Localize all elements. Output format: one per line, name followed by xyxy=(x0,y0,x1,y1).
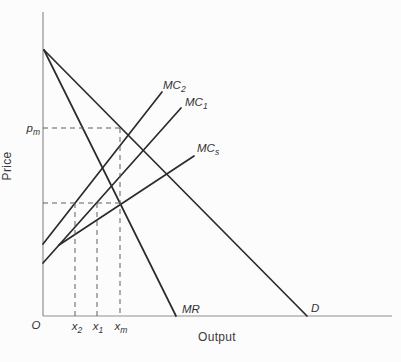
mr-label: MR xyxy=(182,303,200,315)
mc1-label-text: MC xyxy=(185,96,204,108)
pm-label-subscript: m xyxy=(33,127,40,137)
mc2-label-subscript: 2 xyxy=(180,84,186,94)
mc1-label-subscript: 1 xyxy=(203,101,208,111)
origin-label-text: O xyxy=(32,319,41,331)
x1-label-subscript: 1 xyxy=(99,325,104,335)
mcs-label: MCs xyxy=(197,142,220,157)
x2-label: x2 xyxy=(71,320,83,335)
mcs-label-subscript: s xyxy=(215,147,220,157)
d-label-text: D xyxy=(311,302,319,314)
mr-label-text: MR xyxy=(182,303,200,315)
mc2-curve xyxy=(43,92,162,244)
mc2-label: MC2 xyxy=(163,79,186,94)
pm-label: pm xyxy=(26,122,41,137)
mc2-label-text: MC xyxy=(163,79,182,91)
x1-label: x1 xyxy=(92,320,104,335)
x2-label-subscript: 2 xyxy=(77,325,83,335)
mc1-curve xyxy=(43,108,181,263)
diagram-canvas: MC2MC1MCsMRDpmx2x1xmOOutputPrice xyxy=(0,0,401,362)
price-output-diagram: MC2MC1MCsMRDpmx2x1xmOOutputPrice xyxy=(0,0,401,362)
origin-label: O xyxy=(32,319,41,331)
x-axis-label-text: Output xyxy=(198,330,236,344)
mr-curve xyxy=(44,50,176,316)
xm-label-subscript: m xyxy=(120,325,127,335)
y-axis-label-text: Price xyxy=(0,152,14,181)
x-axis-label: Output xyxy=(198,330,236,344)
mc1-label: MC1 xyxy=(185,96,208,111)
y-axis-label: Price xyxy=(0,152,14,181)
mcs-label-text: MC xyxy=(197,142,216,154)
d-label: D xyxy=(311,302,319,314)
xm-label: xm xyxy=(114,320,128,335)
